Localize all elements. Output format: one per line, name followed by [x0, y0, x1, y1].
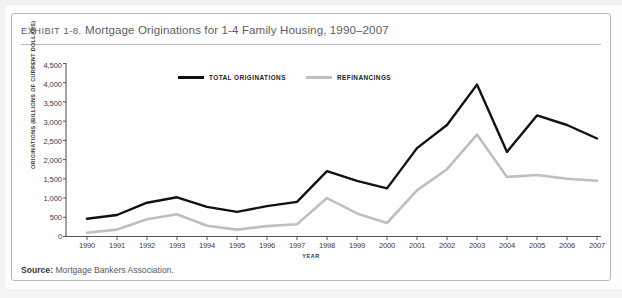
source-text: Mortgage Bankers Association.	[55, 265, 173, 275]
exhibit-page: EXHIBIT 1-8. Mortgage Originations for 1…	[0, 0, 622, 298]
legend-item-total-originations: TOTAL ORIGINATIONS	[178, 74, 286, 81]
legend-label-total-originations: TOTAL ORIGINATIONS	[209, 74, 286, 81]
chart-plot	[0, 0, 622, 298]
series-line-refinancings	[87, 135, 597, 233]
chart-legend: TOTAL ORIGINATIONS REFINANCINGS	[0, 74, 622, 88]
series-line-total-originations	[87, 85, 597, 219]
legend-swatch-refinancings	[306, 76, 332, 79]
source-prefix: Source:	[21, 265, 53, 275]
legend-swatch-total-originations	[178, 76, 204, 79]
legend-label-refinancings: REFINANCINGS	[337, 74, 391, 81]
chart-area: ORIGINATIONS (BILLIONS OF CURRENT DOLLAR…	[0, 0, 622, 298]
source-note: Source: Mortgage Bankers Association.	[21, 265, 174, 275]
legend-item-refinancings: REFINANCINGS	[306, 74, 391, 81]
